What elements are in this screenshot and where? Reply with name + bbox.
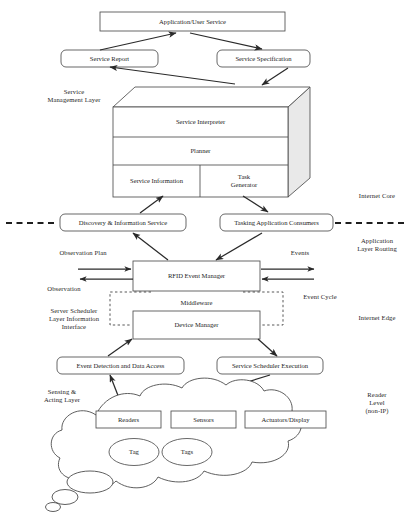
node-device-manager-shape <box>133 311 260 339</box>
arrow-rfid-to-discovery <box>133 233 168 260</box>
node-tags-shape <box>162 439 212 466</box>
node-tag-shape <box>109 439 159 466</box>
node-rfid-event-manager-shape <box>133 261 260 291</box>
arrow-app-to-spec <box>190 33 262 49</box>
cloud-tail-bubble-3 <box>46 503 61 512</box>
diagram-canvas: Application/User Service Service Report … <box>0 0 412 521</box>
arrow-box-to-tasking <box>243 196 268 212</box>
arrow-detection-to-device <box>108 339 132 356</box>
node-service-report-shape <box>61 50 158 67</box>
node-application-user-service-shape <box>100 12 285 31</box>
arrow-spec-to-box <box>262 68 288 85</box>
arrow-report-to-app <box>100 33 176 50</box>
cloud-tail-bubble-1 <box>67 471 113 493</box>
arrow-box-to-report <box>110 67 235 84</box>
node-service-specification-shape <box>217 50 310 67</box>
cloud-tail-bubble-2 <box>52 490 78 505</box>
node-discovery-information-service-shape <box>60 214 186 231</box>
node-service-scheduler-execution-shape <box>217 357 323 374</box>
node-tasking-application-consumers-shape <box>220 214 333 231</box>
node-readers-shape <box>96 411 161 428</box>
service-management-3d-box <box>113 87 310 197</box>
arrow-device-to-scheduler <box>258 339 277 356</box>
arrow-discovery-to-box <box>140 196 163 213</box>
node-event-detection-shape <box>57 357 184 374</box>
arrow-tasking-to-rfid <box>216 233 262 260</box>
diagram-vector-layer <box>0 0 412 521</box>
node-sensors-shape <box>171 411 236 428</box>
node-actuators-display-shape <box>245 411 326 428</box>
